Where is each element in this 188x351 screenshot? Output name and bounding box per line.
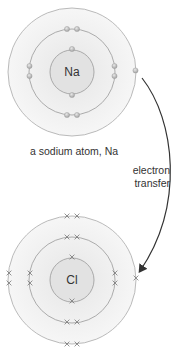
chlorine-atom: Cl xyxy=(7,214,139,347)
electron-transfer-label: electron transfer xyxy=(128,164,170,190)
transfer-label-line2: transfer xyxy=(128,177,170,190)
transfer-label-line1: electron xyxy=(128,164,170,177)
na-symbol: Na xyxy=(64,65,80,79)
na-valence-electron xyxy=(133,68,138,73)
cl-symbol: Cl xyxy=(66,273,77,287)
sodium-caption: a sodium atom, Na xyxy=(30,145,118,158)
sodium-atom: Na xyxy=(8,8,138,136)
